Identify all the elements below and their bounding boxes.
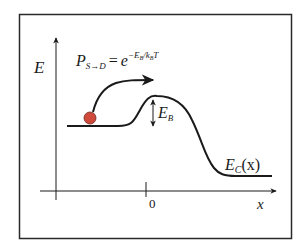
y-axis-label: E	[33, 58, 45, 77]
figure-frame	[20, 15, 292, 239]
transmission-formula: PS→D=e−EB/kBT	[75, 50, 159, 71]
x-axis-label: x	[256, 196, 264, 212]
energy-band-diagram: 0 E x EB EC(x) PS→D=e−EB/kBT	[0, 0, 307, 252]
band-label: EC(x)	[224, 156, 260, 175]
electron-ball	[84, 112, 96, 124]
x-tick-label-zero: 0	[149, 196, 156, 211]
barrier-label: EB	[157, 104, 174, 123]
trajectory-arrow	[93, 80, 153, 112]
